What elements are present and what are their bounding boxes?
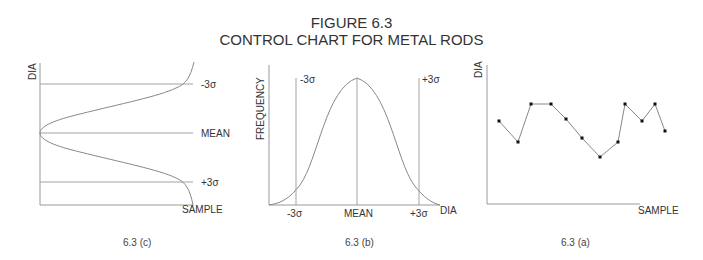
data-point [654, 103, 657, 106]
caption-a: 6.3 (a) [561, 237, 590, 248]
caption-c: 6.3 (c) [123, 237, 151, 248]
data-point [517, 141, 520, 144]
tick-mean: MEAN [344, 208, 373, 219]
data-point [498, 120, 501, 123]
x-axis-label: SAMPLE [182, 204, 223, 215]
sample-line [499, 104, 665, 157]
x-axis-label: DIA [440, 205, 457, 216]
data-point [565, 118, 568, 121]
y-axis-label: DIA [473, 61, 484, 78]
y-axis-label: FREQUENCY [255, 77, 266, 140]
data-points [498, 103, 667, 159]
data-point [550, 103, 553, 106]
minus-3-sigma-top-label: -3σ [300, 74, 316, 85]
chart-a: DIA SAMPLE 6.3 (a) [473, 61, 679, 248]
data-point [581, 137, 584, 140]
chart-b: FREQUENCY -3σ +3σ -3σ MEAN +3σ DIA 6.3 (… [255, 65, 457, 248]
plus-3-sigma-top-label: +3σ [422, 74, 440, 85]
tick-plus-3-sigma: +3σ [410, 208, 428, 219]
tick-minus-3-sigma: -3σ [287, 208, 303, 219]
minus-3-sigma-label: -3σ [201, 79, 217, 90]
rotated-normal-curve [40, 62, 194, 205]
x-axis-label: SAMPLE [638, 205, 679, 216]
y-axis-label: DIA [27, 63, 38, 80]
chart-c: DIA -3σ MEAN +3σ SAMPLE 6.3 (c) [27, 62, 230, 248]
caption-b: 6.3 (b) [345, 237, 374, 248]
data-point [624, 103, 627, 106]
plus-3-sigma-label: +3σ [201, 177, 219, 188]
normal-curve [269, 78, 440, 205]
figure-canvas: DIA -3σ MEAN +3σ SAMPLE 6.3 (c) FREQUENC… [0, 0, 703, 260]
data-point [641, 120, 644, 123]
data-point [530, 103, 533, 106]
data-point [617, 141, 620, 144]
data-point [664, 130, 667, 133]
data-point [599, 156, 602, 159]
mean-label: MEAN [201, 128, 230, 139]
